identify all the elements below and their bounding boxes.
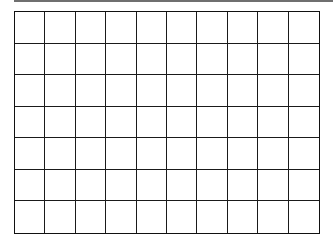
grid-cell-r1-c7 [197,12,227,44]
grid-cell-r6-c9 [258,170,288,202]
grid-cell-r2-c3 [76,44,106,76]
top-divider-bar [14,0,333,2]
grid-cell-r7-c3 [76,201,106,233]
grid-cell-r7-c6 [167,201,197,233]
grid-cell-r2-c4 [106,44,136,76]
grid-cell-r6-c7 [197,170,227,202]
grid-cell-r1-c8 [228,12,258,44]
grid-cell-r2-c5 [137,44,167,76]
grid-cell-r7-c5 [137,201,167,233]
grid-cell-r5-c7 [197,138,227,170]
grid-cell-r5-c9 [258,138,288,170]
grid-cell-r3-c5 [137,75,167,107]
grid-cell-r4-c8 [228,107,258,139]
grid-cell-r2-c7 [197,44,227,76]
grid-cell-r6-c10 [289,170,319,202]
grid-cell-r2-c2 [45,44,75,76]
grid-cell-r6-c3 [76,170,106,202]
grid-cell-r4-c10 [289,107,319,139]
grid-cell-r4-c7 [197,107,227,139]
grid-cell-r7-c10 [289,201,319,233]
grid-cell-r6-c8 [228,170,258,202]
grid-cell-r2-c8 [228,44,258,76]
grid-cell-r5-c4 [106,138,136,170]
grid-cell-r6-c4 [106,170,136,202]
grid-cell-r3-c7 [197,75,227,107]
grid-cell-r7-c8 [228,201,258,233]
grid-cell-r3-c6 [167,75,197,107]
grid-cell-r1-c9 [258,12,288,44]
grid-cell-r2-c6 [167,44,197,76]
grid-cell-r7-c7 [197,201,227,233]
grid-cell-r1-c2 [45,12,75,44]
grid-cell-r4-c2 [45,107,75,139]
grid-cell-r6-c6 [167,170,197,202]
grid-cell-r1-c6 [167,12,197,44]
grid-cell-r4-c6 [167,107,197,139]
grid-cell-r2-c1 [15,44,45,76]
grid-cell-r5-c5 [137,138,167,170]
grid-cell-r2-c9 [258,44,288,76]
grid-cell-r3-c2 [45,75,75,107]
grid-cell-r4-c4 [106,107,136,139]
grid-cell-r4-c5 [137,107,167,139]
grid-cell-r6-c2 [45,170,75,202]
grid-cell-r5-c2 [45,138,75,170]
grid-cell-r5-c10 [289,138,319,170]
grid-cell-r1-c5 [137,12,167,44]
grid-cell-r3-c1 [15,75,45,107]
grid-cell-r2-c10 [289,44,319,76]
grid-cell-r5-c8 [228,138,258,170]
grid-cell-r1-c4 [106,12,136,44]
grid-cell-r4-c1 [15,107,45,139]
grid-cell-r7-c2 [45,201,75,233]
grid-cell-r7-c4 [106,201,136,233]
grid-cell-r5-c6 [167,138,197,170]
grid-cell-r7-c1 [15,201,45,233]
grid-cell-r3-c9 [258,75,288,107]
grid-cell-r4-c9 [258,107,288,139]
grid-cell-r5-c1 [15,138,45,170]
grid-cell-r1-c3 [76,12,106,44]
grid-cell-r5-c3 [76,138,106,170]
grid-cell-r6-c5 [137,170,167,202]
grid-cell-r1-c1 [15,12,45,44]
grid-cell-r1-c10 [289,12,319,44]
grid-cell-r3-c4 [106,75,136,107]
grid-cell-r3-c3 [76,75,106,107]
empty-grid [14,11,320,234]
grid-cell-r3-c8 [228,75,258,107]
grid-cell-r6-c1 [15,170,45,202]
grid-cell-r7-c9 [258,201,288,233]
grid-cell-r3-c10 [289,75,319,107]
grid-cell-r4-c3 [76,107,106,139]
